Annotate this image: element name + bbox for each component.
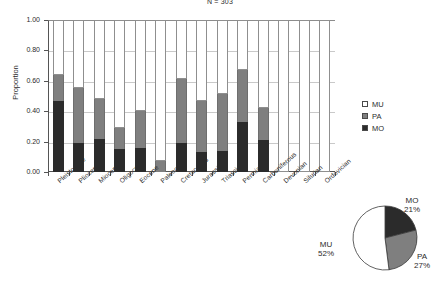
pie-slice-mu[interactable] — [353, 206, 389, 270]
bar-stack[interactable] — [237, 20, 248, 172]
bar-segment-mu[interactable] — [299, 20, 310, 172]
bar-stack[interactable] — [258, 20, 269, 172]
bar-segment-mu[interactable] — [176, 20, 187, 79]
bar-segment-mu[interactable] — [94, 20, 105, 99]
legend-label-mu: MU — [372, 100, 384, 109]
bar-stack[interactable] — [94, 20, 105, 172]
legend-label-mo: MO — [372, 124, 384, 133]
x-tick-mark — [48, 172, 49, 176]
bar-stack[interactable] — [53, 20, 64, 172]
bar-segment-mu[interactable] — [278, 20, 289, 172]
bar-segment-pa[interactable] — [196, 101, 207, 153]
y-tick-label: 0.20 — [14, 138, 40, 145]
bar-segment-mu[interactable] — [114, 20, 125, 128]
bar-segment-pa[interactable] — [94, 99, 105, 139]
bar-stack[interactable] — [196, 20, 207, 172]
bar-stack[interactable] — [73, 20, 84, 172]
y-tick-label: 0.00 — [14, 168, 40, 175]
y-tick-label: 0.80 — [14, 46, 40, 53]
bar-segment-pa[interactable] — [258, 108, 269, 140]
pie-label-pa-name: PA — [417, 252, 427, 261]
bar-stack[interactable] — [217, 20, 228, 172]
chart-title: N = 303 — [150, 0, 290, 5]
legend-item-mo: MO — [362, 122, 384, 134]
bar-segment-pa[interactable] — [217, 94, 228, 150]
y-tick-label: 1.00 — [14, 16, 40, 23]
bar-stack[interactable] — [114, 20, 125, 172]
bar-series-group — [48, 20, 335, 172]
pie-chart — [352, 205, 418, 271]
bar-segment-mu[interactable] — [196, 20, 207, 101]
bar-stack[interactable] — [299, 20, 310, 172]
legend-label-pa: PA — [372, 112, 381, 121]
bar-segment-pa[interactable] — [53, 75, 64, 101]
legend: MU PA MO — [362, 98, 384, 134]
pie-chart-svg — [352, 205, 418, 271]
pie-label-mu-name: MU — [320, 240, 332, 249]
legend-item-mu: MU — [362, 98, 384, 110]
legend-item-pa: PA — [362, 110, 384, 122]
legend-swatch-mo-icon — [362, 125, 368, 131]
bar-stack[interactable] — [135, 20, 146, 172]
bar-segment-mu[interactable] — [237, 20, 248, 70]
legend-swatch-mu-icon — [362, 101, 368, 107]
bar-stack[interactable] — [319, 20, 330, 172]
bar-segment-pa[interactable] — [135, 111, 146, 147]
bar-segment-mu[interactable] — [135, 20, 146, 111]
pie-label-mu-percent: 52% — [318, 249, 334, 258]
bar-segment-mu[interactable] — [73, 20, 84, 88]
pie-label-mo-name: MO — [406, 196, 419, 205]
pie-label-mo-percent: 21% — [404, 205, 420, 214]
bar-segment-pa[interactable] — [237, 70, 248, 122]
bar-segment-pa[interactable] — [73, 88, 84, 143]
bar-segment-mu[interactable] — [155, 20, 166, 161]
bar-segment-pa[interactable] — [176, 79, 187, 143]
bar-stack[interactable] — [155, 20, 166, 172]
bar-stack[interactable] — [278, 20, 289, 172]
y-tick-label: 0.60 — [14, 77, 40, 84]
legend-swatch-pa-icon — [362, 113, 368, 119]
figure-root: N = 303 Proportion 0.000.200.400.600.801… — [0, 0, 448, 289]
bar-stack[interactable] — [176, 20, 187, 172]
pie-label-mu: MU 52% — [318, 240, 334, 258]
y-tick-label: 0.40 — [14, 107, 40, 114]
pie-label-pa: PA 27% — [414, 252, 430, 270]
bar-segment-mu[interactable] — [217, 20, 228, 94]
bar-segment-mu[interactable] — [258, 20, 269, 108]
bar-segment-mo[interactable] — [53, 101, 64, 172]
pie-label-mo: MO 21% — [404, 196, 420, 214]
bar-segment-mu[interactable] — [319, 20, 330, 172]
bar-segment-pa[interactable] — [114, 128, 125, 149]
bar-segment-mu[interactable] — [53, 20, 64, 75]
pie-label-pa-percent: 27% — [414, 261, 430, 270]
